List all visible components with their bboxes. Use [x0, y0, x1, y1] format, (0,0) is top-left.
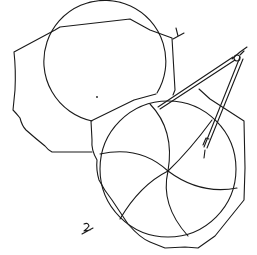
sketch-figure	[0, 0, 257, 255]
board-1-outline	[13, 19, 175, 152]
label-1-mark	[173, 28, 184, 39]
sketch-drawing	[0, 0, 257, 255]
label-2-mark	[82, 223, 93, 234]
compass-icon	[158, 47, 247, 158]
board-1-circle	[44, 0, 166, 121]
center-dot	[96, 96, 98, 98]
